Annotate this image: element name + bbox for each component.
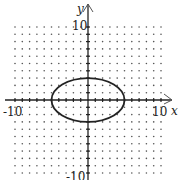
x-min-label: -10 [3,105,22,119]
x-axis-arrow-icon [164,94,172,104]
y-max-label: 10 [72,19,87,33]
y-min-label: -10 [66,170,85,180]
ellipse-plot: y x -10 10 10 -10 [0,0,182,180]
x-axis-label: x [171,104,178,118]
y-axis-label: y [76,2,84,16]
x-max-label: 10 [152,105,167,119]
